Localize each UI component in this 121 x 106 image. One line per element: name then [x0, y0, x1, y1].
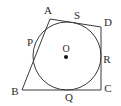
vertex-label-b: B — [11, 86, 18, 97]
circle-center-label-o: O — [62, 43, 69, 54]
tangent-point-label-q: Q — [65, 92, 73, 103]
vertex-label-d: D — [104, 17, 112, 28]
geometry-diagram: A D C B P S R Q O — [0, 0, 121, 106]
tangent-point-label-s: S — [74, 10, 80, 21]
circle-center-dot — [64, 55, 68, 59]
vertex-label-c: C — [104, 83, 111, 94]
tangent-point-label-p: P — [27, 37, 33, 48]
vertex-label-a: A — [44, 5, 52, 16]
tangent-point-label-r: R — [103, 54, 110, 65]
